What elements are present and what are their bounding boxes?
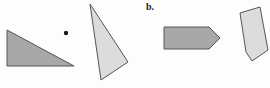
figure-panel: b. (0, 0, 270, 88)
tilted-quadrilateral-shape (240, 7, 268, 61)
center-point-dot-shape (64, 31, 68, 35)
geometry-figure-canvas (0, 0, 270, 88)
scalene-triangle-tall-shape (90, 4, 128, 80)
panel-label-b: b. (146, 2, 154, 12)
arrow-pentagon-shape (164, 27, 220, 49)
right-triangle-left-shape (7, 30, 74, 66)
